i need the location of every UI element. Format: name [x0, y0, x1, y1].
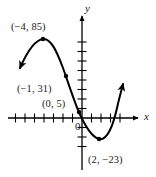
y-axis-label: y: [85, 3, 90, 14]
x-axis-label: x: [144, 111, 149, 122]
graph-figure: (−4, 85) (−1, 31) (0, 5) (2, −23) y x 0: [0, 0, 156, 177]
label-local-min: (2, −23): [88, 155, 123, 166]
point-local-min: [97, 137, 101, 141]
y-axis: [78, 16, 87, 170]
label-local-max: (−4, 85): [11, 22, 46, 33]
point-local-max: [41, 37, 45, 41]
label-point-mid: (−1, 31): [17, 84, 52, 95]
point-y-intercept: [77, 110, 81, 114]
origin-label: 0: [75, 121, 81, 132]
x-axis: [8, 114, 138, 123]
label-y-intercept: (0, 5): [42, 99, 65, 110]
point-mid: [64, 74, 68, 78]
